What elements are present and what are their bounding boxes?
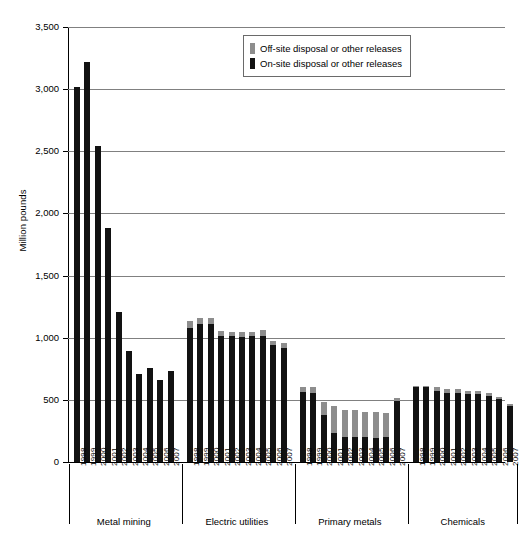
y-tick-label: 1,000 xyxy=(13,333,59,343)
y-tick-label: 3,500 xyxy=(13,22,59,32)
y-tick-label: 2,000 xyxy=(13,208,59,218)
bar-segment-on-site xyxy=(95,146,101,462)
bar xyxy=(105,228,111,462)
x-tick-label-year: 2000 xyxy=(100,447,108,466)
x-tick-label-year: 2004 xyxy=(481,447,489,466)
bar-segment-off-site xyxy=(321,402,327,414)
x-tick-label-year: 2000 xyxy=(326,447,334,466)
bar-segment-off-site xyxy=(331,406,337,433)
group-separator xyxy=(295,464,296,524)
bar-segment-on-site xyxy=(74,87,80,462)
y-tick-mark-0 xyxy=(63,462,68,463)
x-tick-label-year: 1999 xyxy=(203,447,211,466)
bar xyxy=(187,321,193,462)
bar xyxy=(229,332,235,463)
bar-series-container xyxy=(68,27,505,462)
bar xyxy=(197,318,203,462)
x-tick-label-year: 2001 xyxy=(337,447,345,466)
bar-segment-off-site xyxy=(249,332,255,337)
x-tick-label-year: 1999 xyxy=(90,447,98,466)
x-tick-label-year: 2005 xyxy=(378,447,386,466)
x-axis-group-label: Primary metals xyxy=(288,516,412,527)
x-tick-label-year: 1998 xyxy=(193,447,201,466)
bar xyxy=(270,341,276,462)
group-separator xyxy=(517,464,518,524)
bar-segment-off-site xyxy=(281,343,287,347)
x-tick-label-year: 2006 xyxy=(163,447,171,466)
bar xyxy=(126,351,132,462)
bar-segment-on-site xyxy=(116,312,122,462)
x-tick-label-year: 2003 xyxy=(132,447,140,466)
bar-segment-off-site xyxy=(239,332,245,337)
y-tick-label: 2,500 xyxy=(13,146,59,156)
bar-segment-off-site xyxy=(373,412,379,437)
legend-item: Off-site disposal or other releases xyxy=(250,41,402,56)
x-tick-label-year: 1998 xyxy=(80,447,88,466)
x-tick-label-year: 2002 xyxy=(121,447,129,466)
bar-segment-off-site xyxy=(300,387,306,393)
bar xyxy=(74,87,80,462)
bar-segment-off-site xyxy=(496,397,502,399)
bar-segment-off-site xyxy=(342,410,348,436)
bar-segment-off-site xyxy=(423,386,429,388)
bar-segment-on-site xyxy=(249,336,255,462)
bar-segment-on-site xyxy=(239,337,245,462)
bar-segment-off-site xyxy=(187,321,193,328)
x-tick-label-year: 2005 xyxy=(265,447,273,466)
bar-segment-off-site xyxy=(208,318,214,324)
bar-segment-off-site xyxy=(352,410,358,436)
x-tick-label-year: 2002 xyxy=(347,447,355,466)
bar-segment-on-site xyxy=(218,336,224,462)
y-tick-label: 500 xyxy=(13,395,59,405)
x-tick-label-year: 2001 xyxy=(224,447,232,466)
x-tick-label-year: 2003 xyxy=(471,447,479,466)
group-separator xyxy=(69,464,70,524)
x-tick-label-year: 1999 xyxy=(429,447,437,466)
x-tick-label-year: 2007 xyxy=(173,447,181,466)
bar-segment-on-site xyxy=(229,336,235,462)
bar xyxy=(84,62,90,462)
bar xyxy=(249,332,255,463)
bar xyxy=(116,312,122,462)
bar-segment-off-site xyxy=(229,332,235,337)
bar-segment-off-site xyxy=(434,387,440,391)
legend-label: Off-site disposal or other releases xyxy=(260,43,402,54)
bar-segment-off-site xyxy=(444,389,450,393)
bar xyxy=(239,332,245,462)
legend-label: On-site disposal or other releases xyxy=(260,58,402,69)
bar-segment-off-site xyxy=(197,318,203,324)
x-axis-group-label: Electric utilities xyxy=(175,516,299,527)
x-tick-label-year: 2002 xyxy=(234,447,242,466)
bar-segment-on-site xyxy=(197,324,203,462)
bar-segment-off-site xyxy=(270,341,276,345)
x-tick-label-year: 2004 xyxy=(255,447,263,466)
x-tick-label-year: 2007 xyxy=(399,447,407,466)
bar-segment-off-site xyxy=(383,413,389,437)
bar-segment-on-site xyxy=(260,336,266,462)
x-tick-label-year: 2003 xyxy=(245,447,253,466)
legend-swatch-on-site xyxy=(250,58,255,69)
plot-area: 05001,0001,5002,0002,5003,0003,500 xyxy=(68,27,505,462)
group-separator xyxy=(182,464,183,524)
bar-segment-off-site xyxy=(413,386,419,388)
x-tick-label-year: 2006 xyxy=(276,447,284,466)
x-tick-label-year: 2004 xyxy=(142,447,150,466)
bar-segment-off-site xyxy=(218,331,224,336)
bar-segment-on-site xyxy=(84,62,90,462)
x-tick-label-year: 2001 xyxy=(111,447,119,466)
x-tick-label-year: 2002 xyxy=(460,447,468,466)
bar xyxy=(95,146,101,462)
bar-segment-off-site xyxy=(507,404,513,406)
group-separator xyxy=(408,464,409,524)
y-tick-label: 3,000 xyxy=(13,84,59,94)
bar-segment-on-site xyxy=(105,228,111,462)
x-tick-label-year: 2005 xyxy=(491,447,499,466)
x-tick-label-year: 2006 xyxy=(389,447,397,466)
bar-segment-off-site xyxy=(486,393,492,396)
bar-segment-on-site xyxy=(208,324,214,462)
bar-segment-off-site xyxy=(465,391,471,395)
legend-swatch-off-site xyxy=(250,43,255,54)
bar-segment-on-site xyxy=(270,345,276,462)
bar-segment-off-site xyxy=(475,391,481,394)
bar-segment-off-site xyxy=(394,398,400,401)
